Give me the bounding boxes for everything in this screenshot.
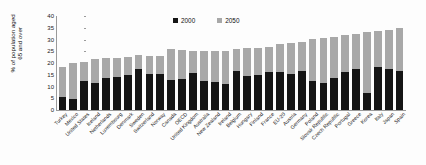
bar-segment-2050 [124, 57, 132, 75]
legend-item-2000: 2000 [173, 17, 195, 24]
bar-segment-2050 [287, 43, 295, 74]
bar-austria [287, 43, 295, 110]
bar-segment-2050 [374, 31, 382, 67]
bar-spain [396, 28, 404, 110]
bar-segment-2050 [200, 51, 208, 81]
y-tick-30: 30 [32, 37, 54, 43]
stacked-bar-chart: % of population aged 65 and over 0510152… [0, 0, 426, 165]
bar-segment-2050 [396, 28, 404, 71]
y-tick-20: 20 [32, 60, 54, 66]
bar-segment-2050 [211, 51, 219, 82]
y-tick-35: 35 [32, 25, 54, 31]
bar-segment-2050 [167, 49, 175, 80]
y-tick-10: 10 [32, 84, 54, 90]
y-tick-25: 25 [32, 48, 54, 54]
y-axis-title: % of population aged 65 and over [9, 0, 24, 91]
y-tick-15: 15 [32, 72, 54, 78]
bar-segment-2050 [352, 34, 360, 69]
bar-segment-2050 [309, 39, 317, 82]
bar-segment-2050 [113, 58, 121, 77]
bar-turkey [59, 67, 67, 110]
bar-segment-2050 [233, 49, 241, 71]
bar-segment-2050 [341, 35, 349, 72]
legend-label-2000: 2000 [181, 17, 195, 24]
y-tick-5: 5 [32, 95, 54, 101]
legend-label-2050: 2050 [225, 17, 239, 24]
bar-segment-2050 [385, 30, 393, 69]
bar-segment-2050 [156, 56, 164, 74]
bar-segment-2050 [254, 48, 262, 75]
bar-segment-2050 [189, 51, 197, 73]
bar-segment-2050 [80, 62, 88, 81]
bar-segment-2050 [276, 44, 284, 72]
bar-segment-2050 [243, 48, 251, 75]
x-axis-category-labels: TurkeyMexicoUnited StatesIcelandNetherla… [57, 111, 405, 165]
bar-japan [385, 30, 393, 110]
bar-segment-2050 [135, 55, 143, 70]
y-axis-tick-labels: 0510152025303540 [30, 16, 54, 110]
chart-legend: 2000 2050 [173, 17, 239, 24]
bar-segment-2050 [178, 50, 186, 80]
bar-segment-2050 [222, 51, 230, 84]
legend-item-2050: 2050 [217, 17, 239, 24]
bar-segment-2050 [102, 58, 110, 78]
y-tick-0: 0 [32, 107, 54, 113]
bar-segment-2050 [330, 37, 338, 77]
bar-segment-2050 [69, 63, 77, 98]
bar-segment-2050 [91, 59, 99, 83]
bar-segment-2050 [298, 42, 306, 72]
y-tick-40: 40 [32, 13, 54, 19]
bar-segment-2050 [265, 47, 273, 72]
bar-segment-2050 [59, 67, 67, 98]
bar-segment-2050 [146, 56, 154, 74]
legend-swatch-2050-icon [217, 18, 222, 23]
bar-italy [374, 31, 382, 110]
bar-segment-2050 [320, 38, 328, 83]
legend-swatch-2000-icon [173, 18, 178, 23]
bar-segment-2050 [363, 32, 371, 93]
